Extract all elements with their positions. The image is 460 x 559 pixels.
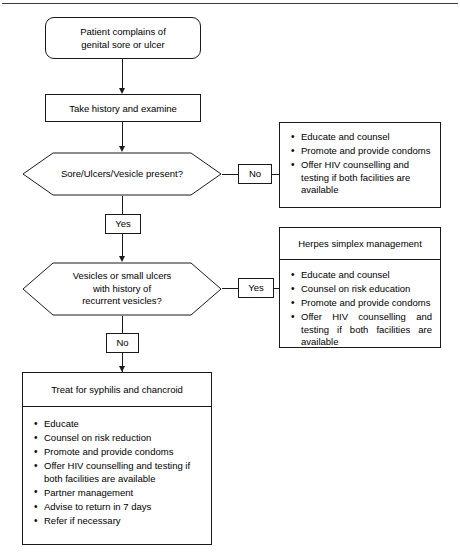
panel-herpes-title: Herpes simplex management <box>280 228 440 260</box>
panel-treat-title: Treat for syphilis and chancroid <box>23 373 211 407</box>
node-decision-recurrent-vesicles-label: Vesicles or small ulcers with history of… <box>22 262 222 316</box>
edge-label-decision1-yes-text: Yes <box>115 218 131 230</box>
list-item: Refer if necessary <box>44 515 203 528</box>
list-item: Offer HIV counselling and testing if bot… <box>301 159 432 197</box>
list-item: Educate <box>44 418 203 431</box>
node-decision-recurrent-vesicles: Vesicles or small ulcers with history of… <box>22 262 222 316</box>
connector-start-to-history <box>122 59 123 91</box>
panel-herpes-list: Educate and counsel Counsel on risk educ… <box>290 269 432 349</box>
flowchart-canvas: Patient complains of genital sore or ulc… <box>0 0 460 559</box>
node-take-history-label: Take history and examine <box>69 102 177 115</box>
panel-herpes: Herpes simplex management Educate and co… <box>279 227 441 348</box>
list-item: Partner management <box>44 487 203 500</box>
edge-label-decision2-no: No <box>106 333 139 353</box>
list-item: Promote and provide condoms <box>301 297 432 310</box>
edge-label-decision1-no-text: No <box>249 168 261 180</box>
list-item: Offer HIV counselling and testing if bot… <box>44 460 203 485</box>
connector-decision2-to-no <box>122 316 123 333</box>
list-item: Advise to return in 7 days <box>44 501 203 514</box>
list-item: Educate and counsel <box>301 269 432 282</box>
edge-label-decision1-yes: Yes <box>105 214 141 234</box>
list-item: Counsel on risk education <box>301 283 432 296</box>
list-item: Counsel on risk reduction <box>44 432 203 445</box>
panel-no-ulcer: Educate and counsel Promote and provide … <box>279 122 441 208</box>
edge-label-decision1-no: No <box>238 164 272 184</box>
header-divider <box>2 3 458 4</box>
list-item: Offer HIV counselling and testing if bot… <box>301 311 432 349</box>
node-take-history: Take history and examine <box>45 94 201 122</box>
panel-treat-list: Educate Counsel on risk reduction Promot… <box>33 418 203 528</box>
edge-label-decision2-yes: Yes <box>238 278 274 298</box>
node-start: Patient complains of genital sore or ulc… <box>45 17 201 59</box>
list-item: Promote and provide condoms <box>301 145 432 158</box>
edge-label-decision2-yes-text: Yes <box>248 282 264 294</box>
connector-decision1-to-no <box>222 174 238 175</box>
connector-decision2-to-yes <box>222 288 238 289</box>
panel-no-ulcer-list: Educate and counsel Promote and provide … <box>290 131 432 197</box>
list-item: Promote and provide condoms <box>44 446 203 459</box>
connector-decision1-to-yes <box>122 196 123 214</box>
panel-no-ulcer-body: Educate and counsel Promote and provide … <box>280 123 440 204</box>
node-start-label: Patient complains of genital sore or ulc… <box>80 25 166 51</box>
panel-treat: Treat for syphilis and chancroid Educate… <box>22 372 212 545</box>
node-decision-sore-present: Sore/Ulcers/Vesicle present? <box>22 152 222 196</box>
list-item: Educate and counsel <box>301 131 432 144</box>
panel-herpes-body: Educate and counsel Counsel on risk educ… <box>280 260 440 357</box>
edge-label-decision2-no-text: No <box>116 337 128 349</box>
node-decision-sore-present-label: Sore/Ulcers/Vesicle present? <box>22 152 222 196</box>
panel-treat-body: Educate Counsel on risk reduction Promot… <box>23 407 211 535</box>
